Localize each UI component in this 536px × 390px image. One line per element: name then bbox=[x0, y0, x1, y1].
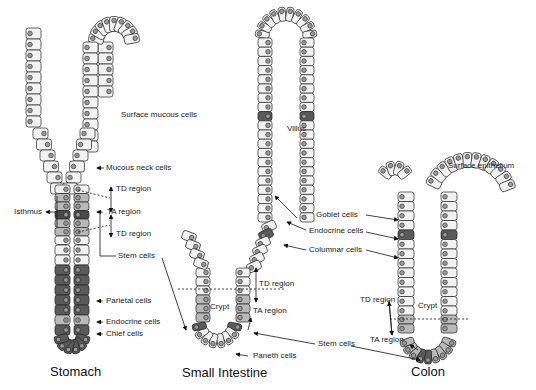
epithelial-cell bbox=[26, 72, 41, 83]
epithelial-cell bbox=[441, 315, 457, 324]
diagram-canvas bbox=[0, 0, 536, 390]
epithelial-cell bbox=[300, 213, 314, 222]
epithelial-cell bbox=[55, 285, 70, 295]
epithelial-cell bbox=[74, 228, 89, 237]
title-stomach: Stomach bbox=[50, 365, 101, 378]
epithelial-cell bbox=[74, 255, 89, 265]
epithelial-cell bbox=[83, 108, 98, 119]
epithelial-cell bbox=[258, 167, 272, 176]
epithelial-cell bbox=[83, 97, 98, 108]
epithelial-cell bbox=[398, 278, 414, 288]
label-si-ta-region: TA region bbox=[253, 307, 287, 315]
epithelial-cell bbox=[44, 161, 59, 172]
epithelial-cell bbox=[300, 93, 314, 102]
epithelial-cell bbox=[26, 28, 41, 39]
epithelial-cell bbox=[398, 211, 414, 221]
epithelial-cell bbox=[26, 105, 41, 116]
label-si-td-region: TD region bbox=[259, 280, 294, 288]
epithelial-cell bbox=[66, 172, 81, 183]
epithelial-cell bbox=[398, 297, 414, 307]
label-isthmus: Isthmus bbox=[14, 208, 42, 216]
epithelial-cell bbox=[55, 255, 70, 265]
epithelial-cell bbox=[398, 249, 414, 259]
epithelial-cell bbox=[37, 139, 52, 150]
epithelial-cell bbox=[83, 75, 98, 86]
epithelial-cell bbox=[74, 265, 89, 275]
epithelial-cell bbox=[441, 268, 457, 278]
epithelial-cell bbox=[441, 192, 457, 202]
epithelial-cell bbox=[258, 194, 272, 203]
epithelial-cell bbox=[83, 86, 98, 97]
epithelial-cell bbox=[258, 121, 272, 130]
epithelial-cell bbox=[300, 47, 314, 56]
epithelial-cell bbox=[398, 306, 414, 316]
epithelial-cell bbox=[74, 194, 89, 203]
epithelial-cell bbox=[73, 150, 88, 161]
epithelial-cell bbox=[258, 112, 272, 121]
epithelial-cell bbox=[300, 185, 314, 194]
epithelial-cell bbox=[98, 64, 113, 75]
label-stomach-td-upper: TD region bbox=[116, 185, 151, 193]
label-chief-cells: Chief cells bbox=[106, 330, 143, 338]
epithelial-cell bbox=[236, 295, 250, 304]
epithelial-cell bbox=[55, 228, 70, 237]
epithelial-cell bbox=[258, 130, 272, 139]
epithelial-cell bbox=[258, 213, 272, 222]
epithelial-cell bbox=[80, 128, 95, 139]
epithelial-cell bbox=[258, 38, 272, 47]
epithelial-cell bbox=[47, 172, 62, 183]
epithelial-cell bbox=[441, 230, 457, 240]
label-columnar-cells: Columnar cells bbox=[309, 246, 362, 254]
epithelial-cell bbox=[441, 202, 457, 212]
label-mucous-neck-cells: Mucous neck cells bbox=[106, 164, 171, 172]
epithelial-cell bbox=[258, 47, 272, 56]
epithelial-cell bbox=[300, 112, 314, 121]
epithelial-cell bbox=[441, 240, 457, 250]
epithelial-cell bbox=[26, 94, 41, 105]
epithelial-cell bbox=[74, 202, 89, 211]
epithelial-cell bbox=[236, 268, 250, 277]
epithelial-cell bbox=[398, 259, 414, 269]
label-si-stem-cells: Stem cells bbox=[318, 340, 355, 348]
epithelial-cell bbox=[26, 116, 41, 127]
epithelial-cell bbox=[55, 315, 70, 325]
epithelial-cell bbox=[26, 83, 41, 94]
epithelial-cell bbox=[74, 219, 89, 228]
colon-crypt bbox=[377, 152, 515, 364]
epithelial-cell bbox=[55, 275, 70, 285]
epithelial-cell bbox=[74, 211, 89, 220]
epithelial-cell bbox=[441, 278, 457, 288]
epithelial-cell bbox=[236, 277, 250, 286]
epithelial-cell bbox=[258, 139, 272, 148]
epithelial-cell bbox=[258, 185, 272, 194]
epithelial-cell bbox=[98, 53, 113, 64]
epithelial-cell bbox=[300, 158, 314, 167]
label-si-endocrine-cells: Endocrine cells bbox=[309, 227, 363, 235]
epithelial-cell bbox=[441, 324, 457, 333]
epithelial-cell bbox=[398, 230, 414, 240]
epithelial-cell bbox=[441, 287, 457, 297]
epithelial-cell bbox=[74, 285, 89, 295]
epithelial-cell bbox=[300, 38, 314, 47]
epithelial-cell bbox=[258, 84, 272, 93]
epithelial-cell bbox=[398, 240, 414, 250]
epithelial-cell bbox=[258, 75, 272, 84]
label-paneth-cells: Paneth cells bbox=[253, 352, 297, 360]
epithelial-cell bbox=[83, 64, 98, 75]
epithelial-cell bbox=[258, 176, 272, 185]
epithelial-cell bbox=[441, 259, 457, 269]
epithelial-cell bbox=[300, 148, 314, 157]
epithelial-cell bbox=[300, 176, 314, 185]
epithelial-cell bbox=[300, 167, 314, 176]
epithelial-cell bbox=[398, 221, 414, 231]
label-colon-ta-region: TA region bbox=[370, 336, 404, 344]
label-colon-td-region: TD region bbox=[360, 296, 395, 304]
epithelial-cell bbox=[441, 306, 457, 316]
epithelial-cell bbox=[40, 150, 55, 161]
epithelial-cell bbox=[300, 194, 314, 203]
label-stomach-endocrine-cells: Endocrine cells bbox=[106, 318, 160, 326]
epithelial-cell bbox=[74, 305, 89, 315]
epithelial-cell bbox=[83, 42, 98, 53]
epithelial-cell bbox=[300, 56, 314, 65]
label-surface-mucous-cells: Surface mucous cells bbox=[121, 111, 197, 119]
